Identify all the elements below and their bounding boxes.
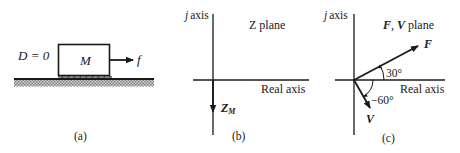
velocity-vector-label: V [366,112,375,126]
force-label: f [137,52,143,67]
j-axis-label: jaxis [183,9,209,22]
force-vector-label: F [423,37,432,51]
z-plane-label: Z plane [249,18,285,32]
damping-label: D = 0 [17,48,50,63]
real-axis-label: Real axis [261,82,306,96]
caption-a: (a) [74,130,87,143]
j-axis-label: jaxis [322,9,348,22]
angle-30-label: 30° [386,67,403,79]
angle-neg60-label: −60° [371,94,394,106]
caption-b: (b) [232,130,246,143]
fv-plane-label: F, Vplane [382,18,434,32]
diagram-canvas: M f D = 0 (a) jaxis Z plane Real axis ZM… [0,0,460,153]
ground [14,79,154,87]
zm-label: ZM [220,101,236,116]
velocity-vector-arrow [354,80,370,108]
caption-c: (c) [382,132,395,145]
panel-b: jaxis Z plane Real axis ZM (b) [183,9,309,143]
panel-a: M f D = 0 (a) [14,45,154,144]
real-axis-label: Real axis [400,82,445,96]
panel-c: jaxis F, Vplane F 30° Real axis −60° V (… [322,9,445,145]
mass-label: M [79,53,92,68]
